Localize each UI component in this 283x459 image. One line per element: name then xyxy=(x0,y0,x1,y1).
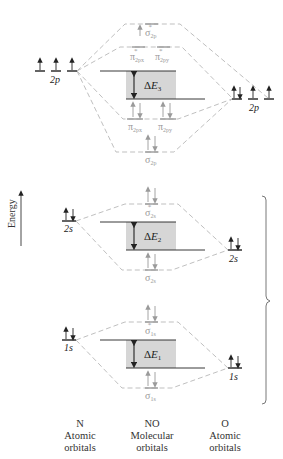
svg-text:σ2p*: σ2p* xyxy=(145,23,156,39)
o-1s-label: 1s xyxy=(229,371,238,382)
svg-text:σ2s*: σ2s* xyxy=(145,203,156,219)
o-1s-orbital xyxy=(228,356,242,368)
energy-gap-2: ΔE2 xyxy=(100,222,205,250)
n-1s-orbital xyxy=(62,328,76,340)
mo-sigma-2p: σ2p xyxy=(145,136,158,166)
column-label-o: O Atomic orbitals xyxy=(190,418,260,454)
svg-text:π2py*: π2py* xyxy=(155,47,169,63)
mo-sigma-star-2p: σ2p* xyxy=(140,23,158,39)
svg-text:π2px*: π2px* xyxy=(130,47,144,63)
svg-text:σ1s: σ1s xyxy=(145,390,156,402)
energy-gap-3: ΔE3 xyxy=(100,71,205,99)
mo-pi-star-2px: π2px* xyxy=(130,47,145,63)
n-1s-label: 1s xyxy=(64,342,73,353)
column-label-no: NO Molecular orbitals xyxy=(117,418,187,454)
mo-pi-2py: π2py xyxy=(158,103,176,133)
mo-sigma-2s: σ2s xyxy=(145,254,158,284)
right-brace xyxy=(262,196,270,404)
o-2p-electrons xyxy=(234,87,269,98)
energy-gap-1: ΔE1 xyxy=(100,340,205,368)
o-2s-label: 2s xyxy=(229,253,238,264)
n-2p-label: 2p xyxy=(50,74,60,85)
n-2p-electrons xyxy=(40,60,72,70)
o-2p-label: 2p xyxy=(249,102,259,113)
mo-sigma-star-1s: σ1s* xyxy=(145,306,158,337)
mo-pi-2px: π2px xyxy=(127,103,143,133)
column-labels: N Atomic orbitals NO Molecular orbitals … xyxy=(0,418,283,458)
mo-pi-star-2py: π2py* xyxy=(155,47,170,63)
mo-sigma-star-2s: σ2s* xyxy=(145,188,158,219)
energy-axis-label: Energy xyxy=(6,199,17,228)
svg-text:σ2s: σ2s xyxy=(145,272,156,284)
n-2s-label: 2s xyxy=(64,223,73,234)
o-2s-orbital xyxy=(228,238,242,250)
svg-text:σ1s*: σ1s* xyxy=(145,321,156,337)
svg-text:π2px: π2px xyxy=(128,121,142,133)
n-2s-orbital xyxy=(62,209,76,221)
svg-text:σ2p: σ2p xyxy=(145,154,156,166)
column-label-n: N Atomic orbitals xyxy=(45,418,115,454)
svg-text:π2py: π2py xyxy=(158,121,172,133)
mo-sigma-1s: σ1s xyxy=(145,372,158,402)
mo-diagram: ΔE3 ΔE2 ΔE1 2p 2s 1s xyxy=(0,0,283,459)
